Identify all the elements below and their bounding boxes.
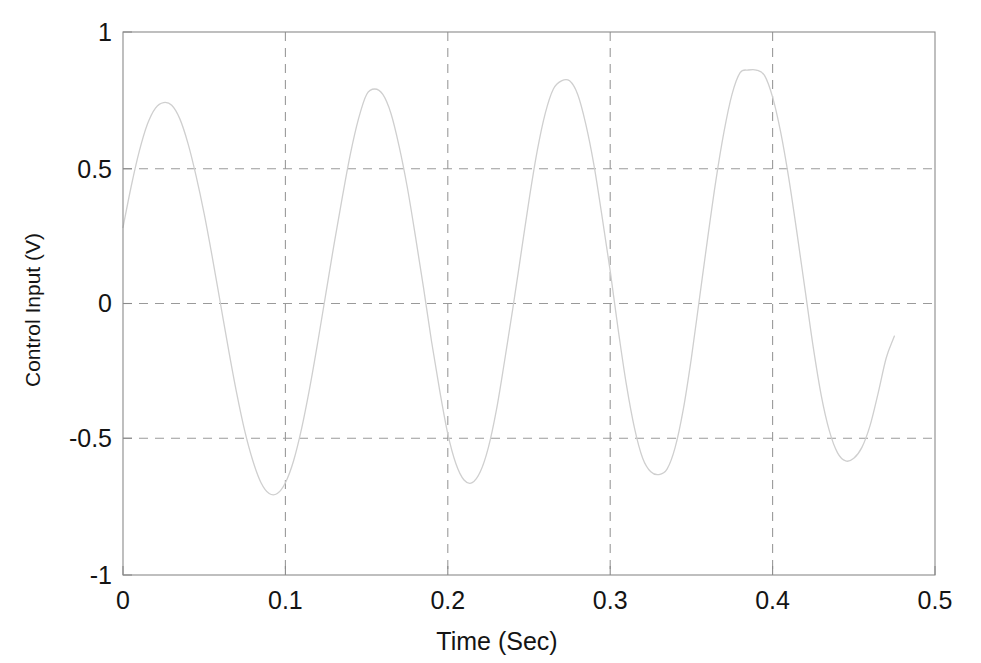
x-axis-title: Time (Sec) bbox=[436, 627, 557, 655]
x-tick-label-0.2: 0.2 bbox=[430, 586, 465, 614]
figure-canvas: 1 0.5 0 -0.5 -1 0 0.1 0.2 0.3 0.4 0.5 Ti… bbox=[0, 0, 981, 663]
y-tick-labels: 1 0.5 0 -0.5 -1 bbox=[69, 18, 112, 589]
chart-plot: 1 0.5 0 -0.5 -1 0 0.1 0.2 0.3 0.4 0.5 Ti… bbox=[0, 0, 981, 663]
x-tick-label-0.3: 0.3 bbox=[593, 586, 628, 614]
y-tick-label-1: 1 bbox=[98, 18, 112, 46]
y-tick-label-minus-0.5: -0.5 bbox=[69, 424, 112, 452]
x-tick-label-0.4: 0.4 bbox=[755, 586, 790, 614]
y-tick-label-minus-1: -1 bbox=[90, 561, 112, 589]
x-tick-label-0.1: 0.1 bbox=[268, 586, 303, 614]
x-tick-label-0.5: 0.5 bbox=[918, 586, 953, 614]
y-axis-title: Control Input (V) bbox=[21, 233, 44, 387]
y-tick-label-0.5: 0.5 bbox=[77, 155, 112, 183]
x-tick-labels: 0 0.1 0.2 0.3 0.4 0.5 bbox=[116, 586, 952, 614]
y-tick-label-0: 0 bbox=[98, 289, 112, 317]
x-tick-label-0: 0 bbox=[116, 586, 130, 614]
